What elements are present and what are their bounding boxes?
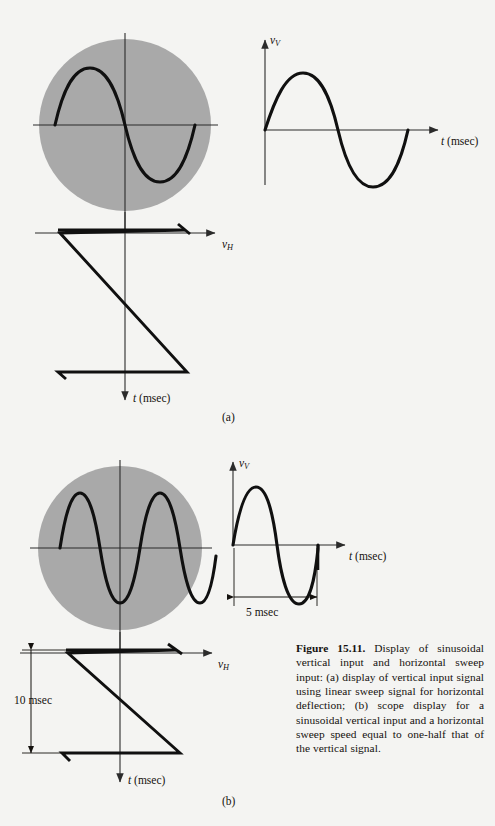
axis-label-vh-b: vH <box>218 658 229 672</box>
axis-label-t-a: t (msec) <box>441 135 478 147</box>
axis-label-vv-b: vV <box>239 457 249 471</box>
sweep-sawtooth-a <box>58 230 187 379</box>
dimension-label-10msec: 10 msec <box>14 694 52 706</box>
axis-label-t-sweep-a: t (msec) <box>133 392 170 404</box>
axis-label-t-sweep-b: t (msec) <box>128 774 165 786</box>
panel-label-a: (a) <box>222 411 235 423</box>
dimension-label-5msec: 5 msec <box>246 606 278 618</box>
panel-label-b: (b) <box>222 795 235 807</box>
axis-label-vh-a: vH <box>222 238 233 252</box>
sweep-sawtooth-b <box>62 650 180 761</box>
figure-page: vV t (msec) vH t (msec) (a) vV t (msec) … <box>0 0 495 826</box>
figure-number: Figure 15.11. <box>296 642 365 654</box>
axis-label-vv-a: vV <box>270 34 280 48</box>
figure-caption-body: Display of sinusoidal vertical input and… <box>296 642 484 754</box>
axis-label-t-b: t (msec) <box>349 550 386 562</box>
figure-caption: Figure 15.11. Display of sinusoidal vert… <box>296 641 484 756</box>
